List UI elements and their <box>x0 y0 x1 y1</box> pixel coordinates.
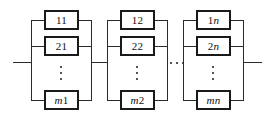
group-n-branch-2-left-stub <box>183 46 196 47</box>
group-n-branch-1-left-stub <box>183 20 196 21</box>
block-22-label: 22 <box>132 41 143 52</box>
group-1-branch-1-left-stub <box>31 20 44 21</box>
block-m1-label-italic: m <box>55 94 63 106</box>
block-mn: mn <box>196 90 231 110</box>
block-mn-label-italic: mn <box>207 94 221 106</box>
group-2-output-bus <box>167 20 168 100</box>
block-m1-label: m1 <box>55 95 69 106</box>
block-2n-label: 2n <box>208 41 219 52</box>
block-m2-label-italic: m <box>131 94 139 106</box>
group-series-ellipsis-icon <box>170 60 184 66</box>
block-m2: m2 <box>120 90 155 110</box>
group-1-input-bus <box>31 20 32 100</box>
group-2-branch-2-left-stub <box>107 46 120 47</box>
block-1n-label: 1n <box>208 15 219 26</box>
block-2n-label-italic: n <box>214 40 220 52</box>
block-m2-label-rest: 2 <box>139 94 145 106</box>
group-n-output-bus <box>243 20 244 100</box>
output-lead-wire <box>243 62 262 63</box>
group-1-branch-2-right-stub <box>79 46 92 47</box>
group-2-branch-2-right-stub <box>155 46 168 47</box>
wire-group1-to-group2 <box>91 62 107 63</box>
block-2n: 2n <box>196 36 231 56</box>
block-22: 22 <box>120 36 155 56</box>
group-n-input-bus <box>183 20 184 100</box>
block-mn-label: mn <box>207 95 221 106</box>
group-1-branch-1-right-stub <box>79 20 92 21</box>
group-n-vertical-ellipsis-icon <box>210 66 216 80</box>
group-2-branch-m-right-stub <box>155 100 168 101</box>
group-1-branch-2-left-stub <box>31 46 44 47</box>
group-2-branch-1-left-stub <box>107 20 120 21</box>
reliability-block-diagram: 11 21 m1 12 22 m2 1n 2n <box>0 0 272 128</box>
group-n-branch-1-right-stub <box>231 20 244 21</box>
group-1-branch-m-right-stub <box>79 100 92 101</box>
group-n-branch-2-right-stub <box>231 46 244 47</box>
input-lead-wire <box>13 62 32 63</box>
block-12-label: 12 <box>132 15 143 26</box>
group-2-input-bus <box>107 20 108 100</box>
block-12: 12 <box>120 10 155 30</box>
block-1n: 1n <box>196 10 231 30</box>
group-1-vertical-ellipsis-icon <box>58 66 64 80</box>
group-n-branch-m-right-stub <box>231 100 244 101</box>
group-2-branch-1-right-stub <box>155 20 168 21</box>
group-1-output-bus <box>91 20 92 100</box>
group-2-branch-m-left-stub <box>107 100 120 101</box>
block-m1: m1 <box>44 90 79 110</box>
block-11: 11 <box>44 10 79 30</box>
block-m1-label-rest: 1 <box>63 94 69 106</box>
block-1n-label-italic: n <box>214 14 220 26</box>
group-1-branch-m-left-stub <box>31 100 44 101</box>
group-n-branch-m-left-stub <box>183 100 196 101</box>
block-21-label: 21 <box>56 41 67 52</box>
group-2-vertical-ellipsis-icon <box>134 66 140 80</box>
block-m2-label: m2 <box>131 95 145 106</box>
block-11-label: 11 <box>56 15 67 26</box>
block-21: 21 <box>44 36 79 56</box>
